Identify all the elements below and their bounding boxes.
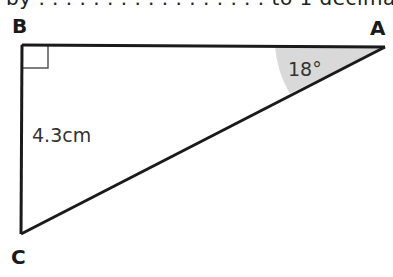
side-bc-length-label: 4.3cm bbox=[32, 124, 91, 146]
triangle-figure: B A C 18° 4.3cm bbox=[0, 0, 393, 277]
angle-a-label: 18° bbox=[288, 58, 322, 80]
vertex-label-b: B bbox=[12, 14, 27, 38]
side-bc bbox=[21, 45, 22, 234]
vertex-label-a: A bbox=[370, 16, 386, 40]
vertex-label-c: C bbox=[11, 245, 26, 269]
right-angle-marker bbox=[22, 45, 48, 68]
side-ab bbox=[22, 45, 385, 47]
